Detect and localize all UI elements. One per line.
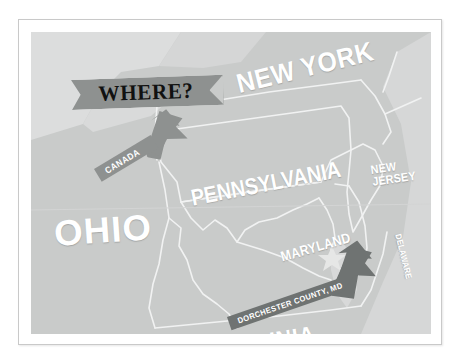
poster-mat: CANADA DORCHESTER COUNTY, MD OHIO NEW YO… (24, 25, 436, 339)
where-banner-label: WHERE? (88, 77, 207, 107)
map-canvas[interactable]: CANADA DORCHESTER COUNTY, MD OHIO NEW YO… (31, 32, 431, 334)
map-poster: CANADA DORCHESTER COUNTY, MD OHIO NEW YO… (0, 0, 461, 363)
ohio-label: OHIO (53, 209, 153, 252)
poster-frame: CANADA DORCHESTER COUNTY, MD OHIO NEW YO… (18, 19, 442, 345)
where-banner: WHERE? (71, 75, 224, 110)
